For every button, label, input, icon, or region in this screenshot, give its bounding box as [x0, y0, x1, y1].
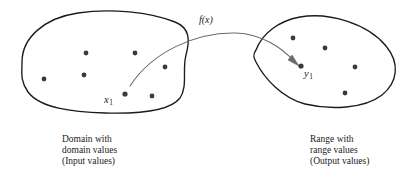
- domain-caption-line-3: (Input values): [62, 156, 117, 167]
- domain-point: [84, 51, 89, 56]
- function-mapping-diagram: f(x) x1 y1 Domain with domain values (In…: [0, 0, 410, 183]
- domain-point: [42, 77, 47, 82]
- domain-point: [150, 94, 155, 99]
- range-caption: Range with range values (Output values): [310, 134, 369, 167]
- domain-point: [82, 73, 87, 78]
- mapping-arrow-curve: [130, 33, 294, 86]
- domain-caption-line-1: Domain with: [62, 134, 117, 145]
- range-point: [353, 65, 358, 70]
- range-point: [291, 36, 296, 41]
- output-element-symbol: y: [304, 68, 309, 79]
- domain-caption-line-2: domain values: [62, 145, 117, 156]
- range-caption-line-2: range values: [310, 145, 369, 156]
- input-element-symbol: x: [104, 94, 109, 105]
- function-label: f(x): [199, 14, 213, 25]
- range-point: [323, 46, 328, 51]
- domain-point-x1: [122, 91, 127, 96]
- range-caption-line-3: (Output values): [310, 156, 369, 167]
- range-point: [343, 91, 348, 96]
- input-element-label: x1: [104, 94, 113, 107]
- range-blob-outline: [254, 16, 396, 108]
- range-points: [291, 36, 358, 96]
- domain-points: [42, 51, 168, 99]
- range-caption-line-1: Range with: [310, 134, 369, 145]
- domain-point: [133, 51, 138, 56]
- domain-point: [163, 65, 168, 70]
- output-element-label: y1: [304, 68, 313, 81]
- range-point-y1: [298, 63, 303, 68]
- domain-caption: Domain with domain values (Input values): [62, 134, 117, 167]
- input-element-subscript: 1: [109, 98, 113, 107]
- output-element-subscript: 1: [309, 72, 313, 81]
